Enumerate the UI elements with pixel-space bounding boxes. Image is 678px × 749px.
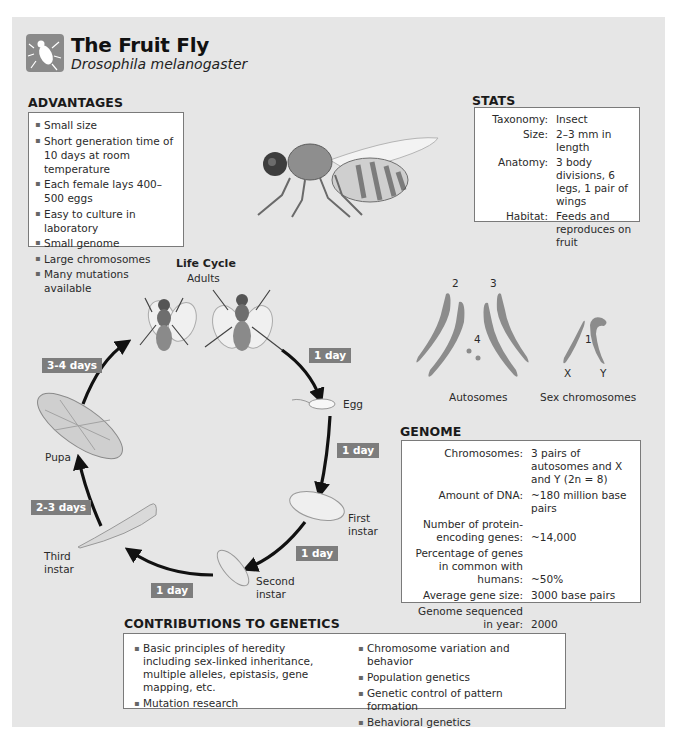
chromosome-drawing [416,293,606,376]
y-chromosome-label: Y [600,367,606,379]
contribution-item: Genetic control of pattern formation [358,687,555,713]
duration-second-to-third-instar: 1 day [151,583,193,598]
duration-first-to-second-instar: 1 day [296,546,338,561]
sex-chromosomes-caption: Sex chromosomes [540,391,636,403]
contribution-item: Basic principles of heredity including s… [134,642,336,694]
chromosome-2-label: 2 [452,277,459,289]
genome-heading: GENOME [400,424,461,439]
genome-row-chromosomes: Chromosomes:3 pairs of autosomes and X a… [408,447,634,486]
genome-box: Chromosomes:3 pairs of autosomes and X a… [401,440,641,603]
contributions-right-list: Chromosome variation and behavior Popula… [358,642,555,700]
genome-row-dna-amount: Amount of DNA:~180 million base pairs [408,489,634,515]
duration-adults-to-egg: 1 day [309,348,351,363]
chromosome-3-label: 3 [490,277,497,289]
genome-row-human-overlap: Percentage of genes in common with human… [408,547,634,586]
duration-pupa-to-adults: 3-4 days [42,358,102,373]
duration-egg-to-first-instar: 1 day [337,443,379,458]
autosomes-caption: Autosomes [449,391,507,403]
contributions-heading: CONTRIBUTIONS TO GENETICS [124,616,340,631]
chromosome-1-label: 1 [585,333,592,345]
adult-fly-right [205,290,282,352]
contribution-item: Behavioral genetics [358,716,555,729]
duration-third-instar-to-pupa: 2-3 days [31,500,91,515]
genome-row-sequenced-year: Genome sequenced in year:2000 [408,605,634,631]
genome-row-gene-count: Number of protein-encoding genes:~14,000 [408,518,634,544]
adult-fly-left [140,297,201,351]
chromosome-4-label: 4 [474,333,481,345]
stage-third-instar-label: Third instar [44,550,80,576]
stage-second-instar-label: Second instar [256,575,300,601]
contributions-box: Basic principles of heredity including s… [123,633,566,709]
x-chromosome-label: X [564,367,571,379]
genome-row-gene-size: Average gene size:3000 base pairs [408,589,634,602]
contribution-item: Chromosome variation and behavior [358,642,555,668]
contribution-item: Mutation research [134,697,336,710]
stage-first-instar-label: First instar [348,512,388,538]
stage-pupa-label: Pupa [45,451,71,464]
stage-egg-label: Egg [343,398,363,411]
contributions-left-list: Basic principles of heredity including s… [134,642,336,700]
contribution-item: Population genetics [358,671,555,684]
